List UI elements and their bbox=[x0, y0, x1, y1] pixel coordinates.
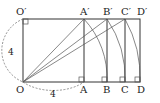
label-D: D bbox=[137, 84, 145, 95]
diagonal-OC-prime bbox=[23, 19, 125, 82]
diagonal-OB-prime bbox=[23, 19, 107, 82]
label-B-prime: B′ bbox=[103, 6, 113, 17]
label-O: O bbox=[16, 84, 24, 95]
outer-rectangle bbox=[23, 19, 140, 82]
right-angle-A bbox=[79, 77, 84, 82]
label-O-prime: O′ bbox=[16, 6, 27, 17]
arc-C-prime-to-D bbox=[125, 19, 140, 82]
right-angle-D bbox=[135, 77, 140, 82]
label-D-prime: D′ bbox=[137, 6, 148, 17]
right-angle-B bbox=[102, 77, 107, 82]
right-angle-C bbox=[120, 77, 125, 82]
label-side-left: 4 bbox=[8, 47, 14, 57]
right-angle-O-prime bbox=[23, 19, 28, 24]
label-A: A bbox=[79, 84, 88, 95]
geometry-diagram: O′ O A′ A B′ B C′ C D′ D 4 4 bbox=[0, 0, 160, 103]
arc-A-prime-to-B bbox=[84, 19, 107, 82]
label-A-prime: A′ bbox=[79, 6, 90, 17]
label-C: C bbox=[121, 84, 129, 95]
label-B: B bbox=[103, 84, 110, 95]
label-side-bottom: 4 bbox=[50, 89, 56, 99]
diagonal-OA-prime bbox=[23, 19, 84, 82]
label-C-prime: C′ bbox=[121, 6, 132, 17]
